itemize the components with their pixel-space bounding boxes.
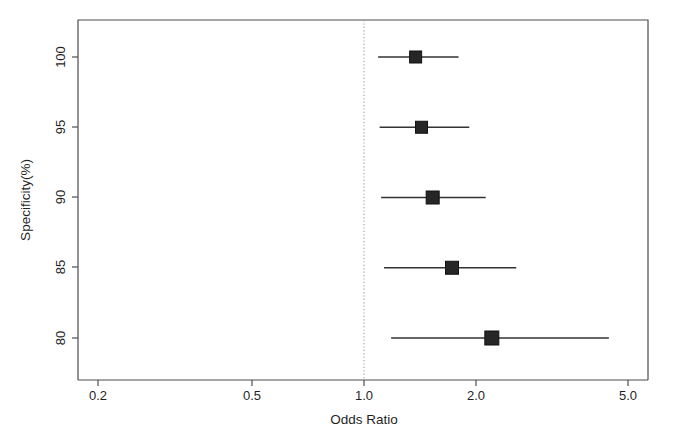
x-tick-label-1-0: 1.0 <box>355 388 373 403</box>
x-tick-label-0-5: 0.5 <box>243 388 261 403</box>
y-axis-title: Specificity(%) <box>18 159 33 241</box>
estimate-marker <box>426 191 439 204</box>
forest-plot-figure: 100 95 90 85 80 Specificity(%) 0.2 0.5 1… <box>0 0 678 439</box>
estimate-marker <box>416 121 428 133</box>
y-tick-label-95: 95 <box>53 120 68 134</box>
estimate-marker <box>410 51 422 63</box>
x-tick-label-2-0: 2.0 <box>467 388 485 403</box>
x-axis-title: Odds Ratio <box>330 412 398 427</box>
y-tick-label-100: 100 <box>53 46 68 68</box>
x-tick-label-0-2: 0.2 <box>89 388 107 403</box>
forest-plot-canvas: 100 95 90 85 80 Specificity(%) 0.2 0.5 1… <box>0 0 678 439</box>
y-tick-label-80: 80 <box>53 331 68 345</box>
estimate-marker <box>446 261 459 274</box>
y-tick-label-90: 90 <box>53 190 68 204</box>
estimate-marker <box>485 331 499 345</box>
plot-background <box>0 0 678 439</box>
y-tick-label-85: 85 <box>53 260 68 274</box>
x-tick-label-5-0: 5.0 <box>619 388 637 403</box>
